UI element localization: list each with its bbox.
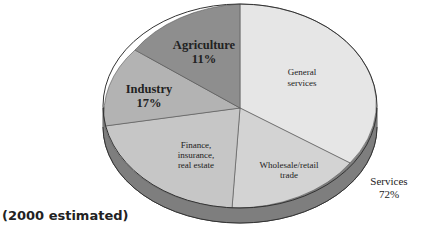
label-general-1: General bbox=[288, 67, 317, 77]
label-finance-2: insurance, bbox=[178, 150, 215, 160]
label-finance-1: Finance, bbox=[181, 140, 212, 150]
label-industry-pct: 17% bbox=[137, 96, 162, 110]
label-general-2: services bbox=[288, 78, 317, 88]
label-agriculture-pct: 11% bbox=[192, 52, 216, 66]
label-wholesale-1: Wholesale/retail bbox=[260, 160, 319, 170]
label-wholesale-2: trade bbox=[280, 170, 298, 180]
label-industry: Industry bbox=[126, 82, 173, 96]
label-services-pct: 72% bbox=[379, 188, 399, 200]
label-finance-3: real estate bbox=[178, 160, 214, 170]
estimate-note: (2000 estimated) bbox=[2, 208, 128, 223]
label-agriculture: Agriculture bbox=[173, 38, 236, 52]
label-services: Services bbox=[370, 175, 407, 187]
